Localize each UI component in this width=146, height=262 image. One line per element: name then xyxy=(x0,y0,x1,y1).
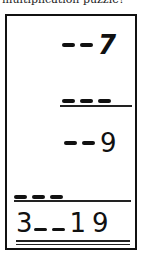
caption-text: multiplication puzzle? xyxy=(2,0,125,6)
blank xyxy=(50,195,63,199)
blank xyxy=(34,228,47,231)
double-rule-bottom xyxy=(16,244,130,245)
blank xyxy=(98,99,111,103)
blank xyxy=(62,99,75,103)
partial-product-2-row xyxy=(14,186,68,205)
blank xyxy=(82,141,95,145)
digit: 7 xyxy=(98,30,117,60)
blank xyxy=(80,99,93,103)
digit: 9 xyxy=(100,128,118,158)
blank xyxy=(62,43,75,47)
blank xyxy=(64,141,77,145)
multiplicand-row: 7 xyxy=(62,30,117,60)
rule-line xyxy=(60,105,132,107)
blank xyxy=(52,228,65,231)
rule-line xyxy=(14,200,131,202)
double-rule-top xyxy=(16,240,130,242)
result-row: 319 xyxy=(16,208,115,238)
partial-product-row: 9 xyxy=(64,128,118,158)
blank xyxy=(14,195,27,199)
blank xyxy=(80,43,93,47)
digit: 19 xyxy=(70,208,115,238)
digit: 3 xyxy=(16,208,34,238)
blank xyxy=(32,195,45,199)
